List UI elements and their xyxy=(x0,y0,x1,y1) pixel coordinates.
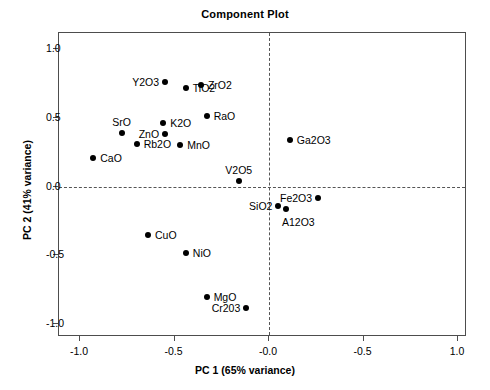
data-point-label: CuO xyxy=(155,229,177,240)
data-point xyxy=(162,79,168,85)
data-point xyxy=(183,85,189,91)
data-point-label: RaO xyxy=(214,111,236,122)
x-tick-mark xyxy=(79,336,80,341)
data-point-label: Rb2O xyxy=(144,139,171,150)
y-tick-label: 0.5 xyxy=(46,111,48,123)
data-point-label: Ga2O3 xyxy=(297,135,331,146)
data-point-label: A12O3 xyxy=(282,217,315,228)
data-point-label: SiO2 xyxy=(249,201,272,212)
data-point-label: K2O xyxy=(170,118,191,129)
x-tick-label: -1.0 xyxy=(70,345,88,357)
horizontal-reference-line xyxy=(59,187,465,188)
x-tick-label: -0.0 xyxy=(259,345,277,357)
data-point xyxy=(183,250,189,256)
x-tick-mark xyxy=(268,336,269,341)
data-point-label: CaO xyxy=(100,152,122,163)
vertical-reference-line xyxy=(269,33,270,335)
x-tick-mark xyxy=(363,336,364,341)
data-point xyxy=(275,203,281,209)
plot-area: ZrO2RaOSrORb2OCaOY2O3TiO2K2OZnOMnOGa2O3V… xyxy=(58,32,466,336)
data-point xyxy=(134,141,140,147)
x-tick-mark xyxy=(174,336,175,341)
x-tick-mark xyxy=(457,336,458,341)
data-point xyxy=(287,137,293,143)
chart-title: Component Plot xyxy=(0,8,490,20)
data-point xyxy=(177,142,183,148)
data-point-label: MgO xyxy=(214,291,237,302)
data-point xyxy=(236,178,242,184)
y-tick-label: -0.5 xyxy=(46,248,48,260)
data-point xyxy=(162,131,168,137)
component-plot-figure: Component Plot ZrO2RaOSrORb2OCaOY2O3TiO2… xyxy=(0,0,490,390)
y-tick-label: -1.0 xyxy=(46,317,48,329)
data-point-label: V2O5 xyxy=(225,165,252,176)
data-point xyxy=(90,155,96,161)
data-point xyxy=(145,232,151,238)
y-tick-label: 0.0 xyxy=(46,180,48,192)
data-point-label: Cr203 xyxy=(212,302,241,313)
data-point-label: MnO xyxy=(187,140,210,151)
data-point-label: NiO xyxy=(193,247,211,258)
data-point xyxy=(204,294,210,300)
y-tick-label: 1.0 xyxy=(46,42,48,54)
x-tick-label: -0.5 xyxy=(164,345,182,357)
data-point xyxy=(119,130,125,136)
y-axis-label: PC 2 (41% variance) xyxy=(21,105,33,275)
data-point-label: TiO2 xyxy=(193,82,215,93)
data-point xyxy=(283,206,289,212)
data-point-label: ZnO xyxy=(139,129,159,140)
data-point xyxy=(160,120,166,126)
data-point xyxy=(315,195,321,201)
data-point xyxy=(204,113,210,119)
x-tick-label: -0.5 xyxy=(353,345,371,357)
data-point-label: Fe2O3 xyxy=(280,192,312,203)
x-tick-label: 1.0 xyxy=(450,345,465,357)
x-axis-label: PC 1 (65% variance) xyxy=(0,364,490,376)
data-point-label: SrO xyxy=(112,116,131,127)
data-point-label: Y2O3 xyxy=(132,77,159,88)
data-point xyxy=(243,305,249,311)
